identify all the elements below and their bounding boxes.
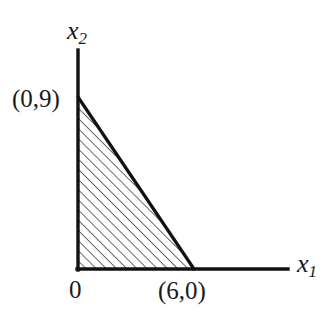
x-axis-label-base: x bbox=[297, 249, 309, 278]
origin-label: 0 bbox=[69, 277, 82, 302]
vertex-label-x-intercept: (6,0) bbox=[158, 278, 206, 303]
y-axis-label: x2 bbox=[67, 18, 87, 47]
x-axis-label-subscript: 1 bbox=[309, 262, 318, 281]
y-axis-label-base: x bbox=[67, 16, 79, 45]
x-axis-label: x1 bbox=[297, 251, 317, 280]
feasible-region-figure: x2 x1 (0,9) (6,0) 0 bbox=[0, 0, 336, 327]
vertex-label-y-intercept: (0,9) bbox=[12, 86, 60, 111]
y-axis-label-subscript: 2 bbox=[79, 29, 88, 48]
